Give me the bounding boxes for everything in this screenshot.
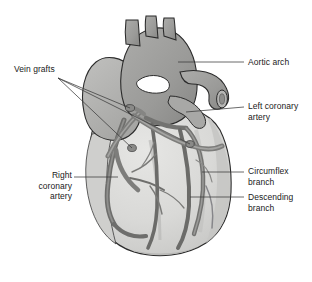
great-vessel-brachiocephalic xyxy=(125,20,140,46)
label-left-coronary-artery: Left coronary artery xyxy=(248,101,308,122)
great-vessel-left-subclavian xyxy=(163,18,176,40)
label-circumflex-branch: Circumflex branch xyxy=(248,166,308,187)
label-aortic-arch: Aortic arch xyxy=(248,57,289,68)
heart-diagram-figure xyxy=(0,0,312,282)
label-descending-branch: Descending branch xyxy=(248,192,310,213)
great-vessel-left-carotid xyxy=(145,16,158,38)
label-right-coronary-artery: Right coronary artery xyxy=(6,170,72,202)
aorta-cut-lumen xyxy=(219,94,224,104)
label-vein-grafts: Vein grafts xyxy=(14,64,55,75)
